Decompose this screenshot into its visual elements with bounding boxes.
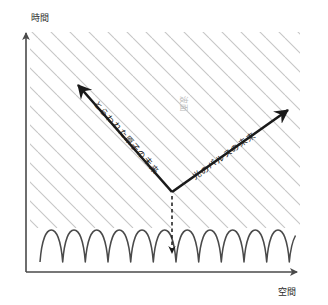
wavefront-label: 波面 (179, 96, 189, 112)
spacetime-diagram-figure: 波面 時間 空間 とらわれた原子の未来 光のパルス (0, 0, 328, 305)
wavefront-label-group: 波面 (179, 96, 189, 112)
x-axis-label: 空間 (278, 286, 296, 297)
light-wave-path (40, 230, 296, 262)
figure-canvas: 波面 時間 空間 とらわれた原子の未来 光のパルス (0, 0, 328, 305)
light-wave-group (40, 230, 296, 262)
y-axis-label: 時間 (31, 13, 49, 23)
